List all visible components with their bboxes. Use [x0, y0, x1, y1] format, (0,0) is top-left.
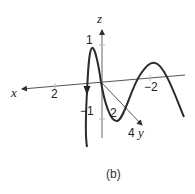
y-tick-2: 2 [110, 106, 117, 120]
z-axis-label: z [96, 11, 102, 26]
y-axis [101, 82, 142, 125]
direction-arrow-icon [84, 86, 91, 95]
x-axis-label: x [10, 85, 17, 100]
y-tick-4: 4 [128, 126, 135, 140]
z-tick-neg1: −1 [80, 104, 94, 118]
z-tick-1: 1 [86, 33, 93, 47]
figure-caption: (b) [106, 167, 121, 181]
x-tick-2: 2 [51, 87, 58, 101]
y-axis-label: y [136, 125, 144, 140]
x-tick-neg2: −2 [144, 80, 158, 94]
x-axis [22, 75, 185, 89]
3d-space-curve-figure: z x y 2 −2 2 4 1 −1 (b) [0, 0, 195, 194]
